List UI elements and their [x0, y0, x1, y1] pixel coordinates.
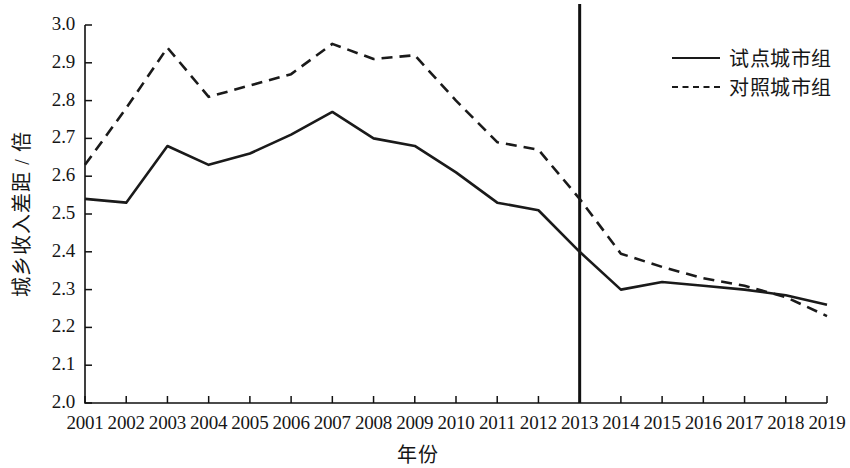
- legend-line-sample-solid-icon: [672, 57, 720, 59]
- y-tick-label: 3.0: [23, 13, 75, 35]
- legend-line-sample-dashed-icon: [672, 86, 720, 88]
- y-tick-label: 2.0: [23, 391, 75, 413]
- legend-label-pilot: 试点城市组: [729, 43, 832, 72]
- legend-item-pilot: 试点城市组: [672, 43, 832, 72]
- chart-legend: 试点城市组 对照城市组: [672, 43, 832, 101]
- y-tick-label: 2.9: [23, 51, 75, 73]
- y-tick-label: 2.8: [23, 89, 75, 111]
- x-axis-title: 年份: [0, 439, 835, 468]
- legend-item-control: 对照城市组: [672, 72, 832, 101]
- y-tick-label: 2.1: [23, 353, 75, 375]
- series-line-pilot: [85, 112, 827, 305]
- legend-label-control: 对照城市组: [729, 72, 832, 101]
- y-axis-title: 城乡收入差距 / 倍: [6, 131, 35, 297]
- y-tick-label: 2.2: [23, 315, 75, 337]
- x-tick-label: 2019: [799, 412, 850, 434]
